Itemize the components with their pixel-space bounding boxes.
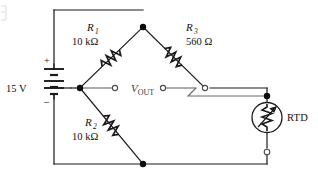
circuit-figure: + – 15 V R 1 10 kΩ R 3 560 Ω R 2 10 kΩ: [0, 0, 318, 179]
battery-minus-sign: –: [43, 96, 50, 107]
wire-jumper-slant: [188, 88, 267, 96]
vout-label: VOUT: [131, 82, 154, 97]
vout-label-subscript: OUT: [138, 88, 155, 97]
rtd-label: RTD: [287, 112, 308, 123]
rtd-top-node-dot: [264, 93, 270, 99]
resistor-r2-ref: R: [84, 116, 92, 128]
rtd-symbol: [252, 103, 282, 133]
resistor-r1-subscript: 1: [95, 27, 99, 36]
circuit-schematic-svg: + – 15 V R 1 10 kΩ R 3 560 Ω R 2 10 kΩ: [0, 0, 318, 179]
top-node-dot: [140, 24, 146, 30]
r3-bottom-terminal[interactable]: [202, 85, 207, 90]
left-node-dot: [77, 85, 83, 91]
resistor-r1-ref: R: [86, 21, 94, 33]
vout-left-terminal[interactable]: [112, 85, 117, 90]
resistor-r2-symbol: [99, 113, 122, 138]
source-voltage-label: 15 V: [6, 83, 27, 94]
bottom-node-dot: [140, 161, 146, 167]
resistor-r2-value: 10 kΩ: [72, 131, 98, 142]
rtd-bottom-terminal[interactable]: [264, 149, 270, 155]
resistor-r3-subscript: 3: [193, 27, 198, 36]
resistor-r3-symbol: [161, 45, 185, 69]
battery-plus-sign: +: [44, 55, 50, 66]
resistor-r2-subscript: 2: [93, 122, 97, 131]
resistor-r3-value: 560 Ω: [186, 36, 212, 47]
battery-symbol: [44, 64, 71, 99]
vout-right-terminal[interactable]: [160, 85, 165, 90]
edge-artifact: [1, 6, 6, 20]
resistor-r3-ref: R: [185, 21, 193, 33]
resistor-r1-value: 10 kΩ: [72, 36, 98, 47]
